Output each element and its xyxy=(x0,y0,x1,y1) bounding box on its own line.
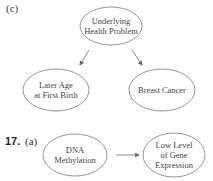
node-low-gene-expression-label: Low Level of Gene Expression xyxy=(155,140,193,170)
node-text-line: Underlying xyxy=(84,16,138,26)
part-a-label: (a) xyxy=(25,135,37,147)
node-underlying-health-problem-label: Underlying Health Problem xyxy=(84,16,138,36)
node-text-line: Methylation xyxy=(54,155,96,165)
problem-number: 17. xyxy=(5,135,20,147)
node-text-line: DNA xyxy=(54,145,96,155)
node-breast-cancer-label: Breast Cancer xyxy=(138,85,186,95)
node-text-line: Low Level xyxy=(155,140,193,150)
node-text-line: of Gene xyxy=(155,150,193,160)
node-text-line: Breast Cancer xyxy=(138,85,186,95)
node-later-age-label: Later Age at First Birth xyxy=(34,80,77,100)
part-c-label: (c) xyxy=(6,2,18,14)
arrow-to-later-age xyxy=(80,50,89,65)
node-dna-methylation-label: DNA Methylation xyxy=(54,145,96,165)
arrow-to-breast-cancer xyxy=(132,50,142,65)
node-text-line: Health Problem xyxy=(84,26,138,36)
node-text-line: at First Birth xyxy=(34,90,77,100)
node-text-line: Expression xyxy=(155,160,193,170)
node-text-line: Later Age xyxy=(34,80,77,90)
